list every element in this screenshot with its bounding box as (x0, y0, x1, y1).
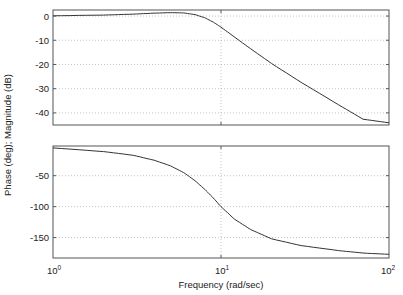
y-tick-label: -50 (35, 170, 49, 181)
y-tick-label: 0 (44, 11, 49, 22)
phase-axes: -50-100-150 (30, 146, 389, 258)
y-tick-label: -150 (30, 232, 49, 243)
svg-text:100: 100 (47, 264, 62, 276)
svg-text:101: 101 (215, 264, 230, 276)
x-tick-labels: 100 101 102 (47, 264, 396, 276)
svg-text:102: 102 (381, 264, 396, 276)
y-axis-label: Phase (deg); Magnitude (dB) (2, 74, 13, 196)
y-tick-label: -40 (35, 107, 49, 118)
y-tick-label: -100 (30, 201, 49, 212)
y-tick-label: -30 (35, 83, 49, 94)
bode-plot: 0-10-20-30-40 -50-100-150 100 101 102 Fr… (0, 0, 403, 295)
magnitude-axes: 0-10-20-30-40 (35, 10, 389, 125)
y-tick-label: -10 (35, 35, 49, 46)
y-tick-label: -20 (35, 59, 49, 70)
x-axis-label: Frequency (rad/sec) (178, 279, 263, 290)
